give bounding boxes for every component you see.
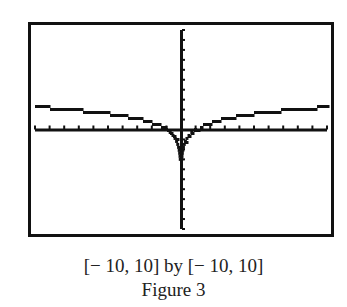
x-axis-tick xyxy=(297,126,299,130)
curve-pixel xyxy=(65,108,69,111)
curve-pixel xyxy=(251,114,255,117)
curve-pixel xyxy=(171,134,174,137)
curve-pixel xyxy=(71,108,75,111)
curve-pixel xyxy=(272,111,276,114)
curve-pixel xyxy=(203,123,207,126)
curve-pixel xyxy=(239,114,243,117)
curve-pixel xyxy=(110,114,114,117)
curve-pixel xyxy=(260,111,264,114)
curve-pixel xyxy=(206,123,210,126)
curve-pixel xyxy=(209,123,213,126)
curve-pixel xyxy=(155,123,159,126)
curve-pixel xyxy=(98,111,102,114)
curve-pixel xyxy=(134,117,138,120)
x-axis-tick xyxy=(282,126,284,130)
curve-pixel xyxy=(92,111,96,114)
curve-pixel xyxy=(149,120,153,123)
x-axis-tick xyxy=(326,126,328,130)
curve-pixel xyxy=(320,105,324,108)
y-axis-tick xyxy=(182,89,185,91)
curve-pixel xyxy=(317,105,321,108)
curve-pixel xyxy=(311,108,315,111)
x-axis-tick xyxy=(268,126,270,130)
curve-pixel xyxy=(281,108,285,111)
curve-pixel xyxy=(152,123,156,126)
x-axis-tick xyxy=(34,126,36,130)
curve-pixel xyxy=(183,143,186,146)
x-axis-tick xyxy=(224,126,226,130)
curve-pixel xyxy=(266,111,270,114)
x-axis-tick xyxy=(311,126,313,130)
curve-pixel xyxy=(137,117,141,120)
curve-pixel xyxy=(245,114,249,117)
curve-pixel xyxy=(101,111,105,114)
curve-pixel xyxy=(299,108,303,111)
curve-pixel xyxy=(146,120,150,123)
curve-pixel xyxy=(41,105,45,108)
curve-pixel xyxy=(176,143,179,146)
curve-pixel xyxy=(50,108,54,111)
curve-pixel xyxy=(169,131,172,134)
curve-pixel xyxy=(125,114,129,117)
curve-pixel xyxy=(184,140,187,143)
curve-pixel xyxy=(74,108,78,111)
curve-pixel xyxy=(178,152,181,155)
x-axis-tick xyxy=(151,126,153,130)
curve-pixel xyxy=(53,108,57,111)
curve-pixel xyxy=(161,126,165,129)
y-axis-tick xyxy=(182,79,185,81)
curve-pixel xyxy=(107,111,111,114)
curve-pixel xyxy=(314,108,318,111)
curve-pixel xyxy=(143,120,147,123)
curve-pixel xyxy=(236,114,240,117)
y-axis-tick xyxy=(182,49,185,51)
curve-pixel xyxy=(174,137,177,140)
curve-pixel xyxy=(178,149,181,152)
curve-pixel xyxy=(182,146,185,149)
y-axis-tick xyxy=(182,39,185,41)
curve-pixel xyxy=(227,117,231,120)
x-axis-tick xyxy=(122,126,124,130)
curve-pixel xyxy=(290,108,294,111)
curve-pixel xyxy=(95,111,99,114)
curve-pixel xyxy=(89,111,93,114)
curve-pixel xyxy=(165,128,168,131)
y-axis-tick xyxy=(182,208,185,210)
y-axis-tick xyxy=(182,99,185,101)
curve-pixel xyxy=(181,152,184,155)
curve-pixel xyxy=(248,114,252,117)
y-axis-tick xyxy=(182,109,185,111)
curve-pixel xyxy=(188,134,191,137)
curve-pixel xyxy=(83,111,87,114)
curve-pixel xyxy=(122,114,126,117)
curve-pixel xyxy=(284,108,288,111)
graph-plot xyxy=(31,25,331,234)
x-axis-tick xyxy=(238,126,240,130)
curve-pixel xyxy=(119,114,123,117)
curve-pixel xyxy=(287,108,291,111)
figure-caption: Figure 3 xyxy=(0,279,347,301)
curve-pixel xyxy=(323,105,327,108)
y-axis-tick xyxy=(182,228,185,230)
curve-pixel xyxy=(35,105,39,108)
curve-pixel xyxy=(296,108,300,111)
curve-pixel xyxy=(175,140,178,143)
curve-pixel xyxy=(212,120,216,123)
y-axis-tick xyxy=(182,198,185,200)
curve-pixel xyxy=(80,108,84,111)
curve-pixel xyxy=(131,117,135,120)
curve-pixel xyxy=(278,111,282,114)
x-axis-tick xyxy=(49,126,51,130)
curve-pixel xyxy=(185,137,188,140)
curve-pixel xyxy=(190,131,193,134)
x-axis-tick xyxy=(92,126,94,130)
curve-pixel xyxy=(308,108,312,111)
y-axis-tick xyxy=(182,168,185,170)
y-axis-tick xyxy=(182,178,185,180)
curve-pixel xyxy=(242,114,246,117)
x-axis-tick xyxy=(63,126,65,130)
curve-pixel xyxy=(263,111,267,114)
curve-pixel xyxy=(180,155,183,158)
curve-pixel xyxy=(302,108,306,111)
curve-pixel xyxy=(77,108,81,111)
